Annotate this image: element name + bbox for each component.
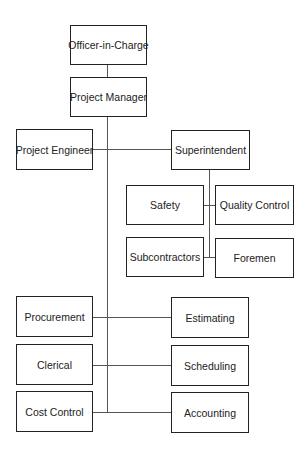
connector-super-trunk — [209, 170, 210, 258]
node-cost-control: Cost Control — [16, 391, 93, 432]
node-safety: Safety — [126, 185, 204, 225]
node-project-engineer: Project Engineer — [16, 129, 93, 170]
connector-clerical-scheduling — [93, 365, 171, 366]
connector-cost-accounting — [93, 412, 171, 413]
node-subcontractors: Subcontractors — [126, 237, 204, 277]
node-project-manager: Project Manager — [70, 77, 147, 117]
node-accounting: Accounting — [171, 392, 249, 433]
node-foremen: Foremen — [215, 238, 294, 278]
connector-subs-foremen — [204, 257, 215, 258]
connector-pe-super — [93, 149, 171, 150]
node-procurement: Procurement — [16, 296, 93, 337]
connector-pm-trunk — [107, 117, 108, 413]
node-clerical: Clerical — [16, 344, 93, 385]
node-estimating: Estimating — [171, 297, 249, 338]
connector-officer-pm — [107, 65, 108, 77]
node-superintendent: Superintendent — [171, 130, 250, 170]
node-officer-in-charge: Officer-in-Charge — [70, 25, 147, 65]
node-scheduling: Scheduling — [171, 345, 249, 386]
connector-safety-qc — [204, 205, 215, 206]
connector-procurement-estimating — [93, 317, 171, 318]
node-quality-control: Quality Control — [215, 185, 294, 225]
